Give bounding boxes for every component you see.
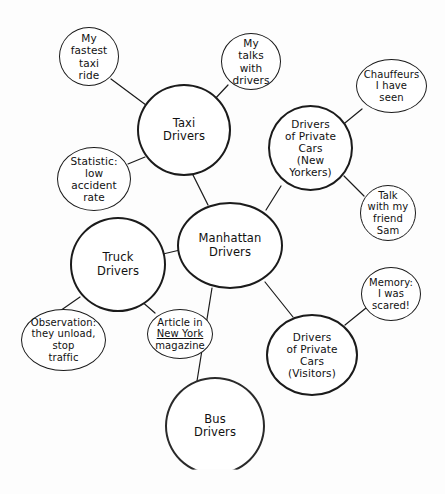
node-memory-i-was-scared-label: Memory:I wasscared! xyxy=(365,277,417,312)
node-manhattan-drivers-label: ManhattanDrivers xyxy=(195,232,266,259)
node-drivers-of-private-cars-visitors-label: Driversof PrivateCars(Visitors) xyxy=(282,331,341,380)
node-taxi-drivers[interactable]: TaxiDrivers xyxy=(137,84,231,176)
node-statistic-low-accident-rate[interactable]: Statistic:lowaccidentrate xyxy=(57,147,131,211)
node-drivers-of-private-cars-new-yorkers-label: Driversof PrivateCars(NewYorkers) xyxy=(281,118,340,179)
node-manhattan-drivers[interactable]: ManhattanDrivers xyxy=(177,202,283,289)
edge-visitors-to-memory xyxy=(345,308,366,325)
node-observation-they-unload-stop-traffic[interactable]: Observation:they unload,stoptraffic xyxy=(21,309,106,371)
node-drivers-of-private-cars-new-yorkers[interactable]: Driversof PrivateCars(NewYorkers) xyxy=(268,105,353,191)
node-statistic-low-accident-rate-label: Statistic:lowaccidentrate xyxy=(66,155,121,204)
node-truck-drivers[interactable]: TruckDrivers xyxy=(70,217,166,312)
node-chauffeurs-i-have-seen-label: ChauffeursI haveseen xyxy=(360,69,424,104)
node-drivers-of-private-cars-visitors[interactable]: Driversof PrivateCars(Visitors) xyxy=(266,314,358,396)
node-bus-drivers-label: BusDrivers xyxy=(190,413,240,440)
edge-taxi-to-manhattan xyxy=(192,173,208,205)
node-bus-drivers[interactable]: BusDrivers xyxy=(165,377,265,475)
node-my-fastest-taxi-ride[interactable]: Myfastesttaxiride xyxy=(59,27,119,86)
node-article-in-new-york-magazine-underlined-text: New York xyxy=(157,328,204,339)
edge-nyprivate-to-talk-sam xyxy=(344,176,364,196)
node-chauffeurs-i-have-seen[interactable]: ChauffeursI haveseen xyxy=(356,59,427,113)
edge-nyprivate-to-manhattan xyxy=(266,186,281,210)
node-observation-they-unload-stop-traffic-label: Observation:they unload,stoptraffic xyxy=(27,317,100,363)
node-my-talks-with-drivers-label: Mytalkswithdrivers xyxy=(228,37,273,86)
node-truck-drivers-label: TruckDrivers xyxy=(93,251,143,278)
node-talk-with-my-friend-sam-label: Talkwith myfriendSam xyxy=(364,190,413,236)
node-article-in-new-york-magazine-label: Article inNew Yorkmagazine xyxy=(151,317,209,352)
mindmap-canvas: MyfastesttaxirideMytalkswithdriversChauf… xyxy=(0,0,445,494)
edge-manhattan-to-visitors xyxy=(265,282,293,317)
node-my-talks-with-drivers[interactable]: Mytalkswithdrivers xyxy=(221,33,281,90)
node-talk-with-my-friend-sam[interactable]: Talkwith myfriendSam xyxy=(360,185,416,241)
edge-taxi-to-statistic xyxy=(128,157,145,164)
node-my-fastest-taxi-ride-label: Myfastesttaxiride xyxy=(67,32,111,81)
node-article-in-new-york-magazine[interactable]: Article inNew Yorkmagazine xyxy=(147,309,213,359)
node-memory-i-was-scared[interactable]: Memory:I wasscared! xyxy=(361,267,421,321)
node-taxi-drivers-label: TaxiDrivers xyxy=(159,117,209,144)
